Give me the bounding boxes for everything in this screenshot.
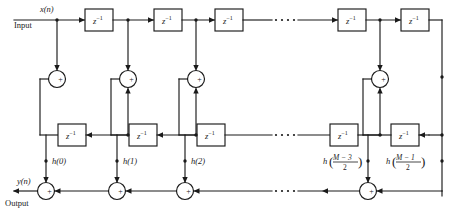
- arrow-junction-3-up: [377, 88, 382, 94]
- output-text-label: Output: [5, 198, 29, 208]
- coefficient-labels: h(0) h(1) h(2) h ( M − 3 2 ) h ( M − 1 2…: [52, 153, 425, 172]
- coef-h2-label: h(2): [191, 156, 205, 166]
- adder-upper-2: [120, 71, 137, 88]
- arrow-mid-2: [157, 132, 163, 137]
- arrow-top-2: [148, 17, 154, 22]
- junction-node-2: [194, 133, 197, 136]
- coef-h0-label: h(0): [52, 156, 66, 166]
- output-signal-label: y(n): [16, 176, 31, 186]
- arrow-junction-1-up: [125, 88, 130, 94]
- coef-hm1-denominator: 2: [406, 163, 410, 172]
- arrow-top-4: [332, 17, 338, 22]
- coef-hm1-numerator: M − 1: [395, 153, 415, 162]
- arrow-output: [13, 188, 19, 193]
- coef-h1-label: h(1): [123, 156, 137, 166]
- svg-text:h: h: [323, 156, 327, 166]
- coef-hm3-label: h ( M − 3 2 ): [323, 153, 362, 172]
- diagram-canvas: z−1 z−1 z−1 z−1 z−: [0, 0, 452, 215]
- svg-text:h: h: [386, 156, 390, 166]
- arrow-out-3b: [322, 188, 328, 193]
- coef-hm3-numerator: M − 3: [332, 153, 352, 162]
- junction-node-1: [126, 133, 129, 136]
- coef-hm3-paren-close: ): [358, 154, 362, 169]
- junction-node-3: [378, 133, 381, 136]
- adder-out-4: [360, 183, 377, 200]
- arrow-out-1: [55, 188, 61, 193]
- coef-hm1-paren-close: ): [421, 154, 425, 169]
- top-row-ellipsis: [275, 19, 295, 21]
- adder-upper-4: [372, 71, 389, 88]
- coef-node-1: [115, 159, 118, 162]
- arrow-mid-5: [419, 132, 425, 137]
- adder-out-3: [177, 183, 194, 200]
- adder-out-2-symbol: +: [118, 187, 123, 196]
- adder-upper-2-symbol: +: [129, 75, 134, 84]
- top-delay-line: z−1 z−1 z−1 z−1 z−: [14, 9, 444, 196]
- input-signal-label: x(n): [39, 4, 54, 14]
- adder-upper-3: [188, 71, 205, 88]
- right-bus-node-upper: [440, 75, 443, 78]
- adder-out-4-symbol: +: [369, 187, 374, 196]
- coef-hm3-denominator: 2: [343, 163, 347, 172]
- adder-upper-1: [49, 71, 66, 88]
- fir-filter-diagram: z−1 z−1 z−1 z−1 z−: [0, 0, 452, 215]
- bottom-row-ellipsis: [275, 190, 295, 192]
- adder-upper-4-symbol: +: [381, 75, 386, 84]
- arrow-top-1: [79, 17, 85, 22]
- middle-delay-line: z−1 z−1 z−1 z−1 z−1: [58, 124, 442, 146]
- right-bus-node-low: [440, 159, 443, 162]
- adder-upper-3-symbol: +: [197, 75, 202, 84]
- arrow-out-2: [126, 188, 132, 193]
- arrow-out-4: [377, 188, 383, 193]
- coef-hm1-label: h ( M − 1 2 ): [386, 153, 425, 172]
- adder-out-1: [38, 183, 55, 200]
- adder-out-2: [109, 183, 126, 200]
- arrow-top-3: [209, 17, 215, 22]
- coef-node-0: [44, 159, 47, 162]
- adder-upper-1-symbol: +: [58, 75, 63, 84]
- coef-node-2: [183, 159, 186, 162]
- input-text-label: Input: [14, 20, 33, 30]
- upper-adders: + + + +: [49, 71, 389, 88]
- arrow-mid-1: [86, 132, 92, 137]
- adder-out-3-symbol: +: [186, 187, 191, 196]
- coef-node-3: [366, 159, 369, 162]
- middle-row-ellipsis: [275, 134, 295, 136]
- adder-out-1-symbol: +: [47, 187, 52, 196]
- arrow-out-3: [194, 188, 200, 193]
- arrow-junction-2-up: [193, 88, 198, 94]
- output-summing-chain: + + + +: [13, 183, 442, 200]
- arrow-top-5: [395, 17, 401, 22]
